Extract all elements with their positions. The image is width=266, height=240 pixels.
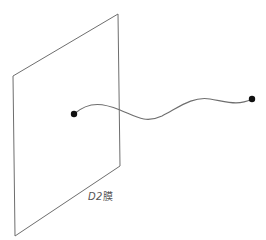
open-string [74, 99, 252, 120]
brane-label-prefix: D2 [88, 191, 103, 202]
string-endpoint-on-brane [71, 111, 77, 117]
d2-brane-diagram [0, 0, 266, 240]
brane-label: D2膜 [88, 188, 113, 203]
string-free-endpoint [249, 96, 255, 102]
brane-label-suffix: 膜 [103, 191, 113, 202]
